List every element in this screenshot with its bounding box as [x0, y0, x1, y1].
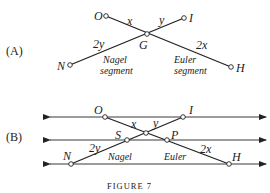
label-i-a: I	[189, 12, 193, 24]
label-2x-a: 2x	[196, 39, 207, 51]
point-o-a	[104, 14, 109, 19]
label-p-b: P	[171, 129, 178, 141]
label-n-b: N	[63, 150, 71, 162]
label-o-b: O	[94, 104, 103, 116]
figure-drawing	[0, 0, 270, 193]
euler-label-2-a: segment	[174, 66, 207, 76]
point-i-b	[181, 115, 186, 120]
point-s-b	[125, 138, 130, 143]
label-y-b: y	[153, 117, 158, 129]
label-i-b: I	[189, 104, 193, 116]
point-o-b	[103, 115, 108, 120]
point-n-a	[68, 63, 73, 68]
point-h-b	[227, 162, 232, 167]
point-i-a	[182, 16, 187, 21]
label-2y-b: 2y	[89, 142, 100, 154]
label-o-a: O	[94, 10, 103, 22]
figure: (A) O I G N H x y 2y 2x Nagel segment Eu…	[0, 0, 270, 193]
nagel-label-b: Nagel	[108, 152, 132, 162]
label-h-a: H	[236, 62, 245, 74]
euler-label-1-a: Euler	[174, 55, 196, 65]
label-s-b: S	[115, 129, 121, 141]
euler-label-b: Euler	[164, 152, 186, 162]
label-2y-a: 2y	[93, 38, 104, 50]
label-x-a: x	[127, 15, 132, 27]
figure-caption: FIGURE 7	[107, 181, 152, 191]
point-g-a	[145, 32, 150, 37]
point-p-b	[165, 138, 170, 143]
panel-a-label: (A)	[6, 45, 23, 57]
label-g-a: G	[139, 39, 148, 51]
nagel-label-2-a: segment	[100, 66, 133, 76]
panel-b-label: (B)	[6, 131, 22, 143]
label-n-a: N	[57, 60, 65, 72]
nagel-label-1-a: Nagel	[103, 55, 127, 65]
point-g-b	[144, 131, 149, 136]
label-2x-b: 2x	[200, 143, 211, 155]
point-h-a	[229, 65, 234, 70]
label-x-b: x	[131, 118, 136, 130]
label-y-a: y	[159, 14, 164, 26]
label-h-b: H	[232, 151, 241, 163]
